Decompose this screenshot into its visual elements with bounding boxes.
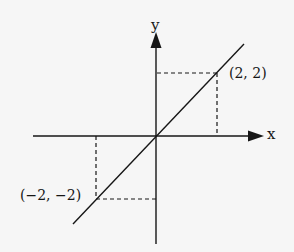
x-axis-label: x bbox=[267, 127, 275, 142]
x-axis-arrowhead-icon bbox=[248, 131, 264, 142]
point-label-neg2-neg2: (−2, −2) bbox=[20, 188, 81, 202]
diagram-graphic bbox=[0, 0, 294, 252]
coordinate-diagram: y x (2, 2) (−2, −2) bbox=[0, 0, 294, 252]
y-axis-arrowhead-icon bbox=[151, 32, 162, 48]
y-axis-label: y bbox=[151, 18, 159, 33]
line-y-equals-x bbox=[73, 44, 244, 224]
point-label-2-2: (2, 2) bbox=[229, 66, 267, 80]
